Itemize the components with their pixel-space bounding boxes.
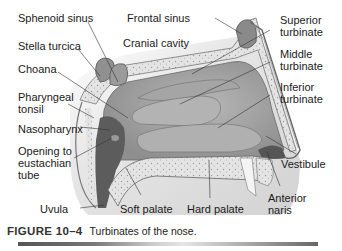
- label-choana: Choana: [18, 63, 57, 75]
- label-superior-turbinate-line1: Superior: [280, 14, 322, 26]
- label-superior-turbinate-line2: turbinate: [280, 26, 323, 38]
- label-uvula: Uvula: [40, 203, 68, 215]
- label-pharyngeal-tonsil-line1: Pharyngeal: [18, 91, 74, 103]
- label-sphenoid-sinus: Sphenoid sinus: [18, 12, 93, 24]
- nose-turbinates-figure: Sphenoid sinus Stella turcica Choana Pha…: [0, 0, 342, 251]
- label-pharyngeal-tonsil-line2: tonsil: [18, 103, 44, 115]
- label-nasopharynx: Nasopharynx: [18, 123, 83, 135]
- figure-caption: FIGURE 10–4 Turbinates of the nose.: [7, 225, 197, 237]
- figure-number: FIGURE 10–4: [7, 225, 83, 237]
- label-stella-turcica: Stella turcica: [18, 40, 81, 52]
- label-soft-palate: Soft palate: [120, 203, 173, 215]
- label-cranial-cavity: Cranial cavity: [123, 37, 189, 49]
- label-eustachian-line1: Opening to: [18, 145, 72, 157]
- label-anterior-naris-line2: naris: [268, 204, 292, 216]
- label-eustachian-line2: eustachian: [18, 157, 71, 169]
- label-anterior-naris-line1: Anterior: [268, 192, 307, 204]
- label-middle-turbinate-line2: turbinate: [280, 60, 323, 72]
- label-inferior-turbinate-line2: turbinate: [280, 93, 323, 105]
- figure-caption-text: Turbinates of the nose.: [90, 225, 197, 237]
- label-frontal-sinus: Frontal sinus: [127, 12, 190, 24]
- label-hard-palate: Hard palate: [187, 203, 244, 215]
- label-middle-turbinate-line1: Middle: [280, 48, 312, 60]
- label-inferior-turbinate-line1: Inferior: [280, 81, 314, 93]
- caption-divider: [18, 242, 318, 246]
- label-eustachian-line3: tube: [18, 169, 39, 181]
- label-vestibule: Vestibule: [281, 158, 326, 170]
